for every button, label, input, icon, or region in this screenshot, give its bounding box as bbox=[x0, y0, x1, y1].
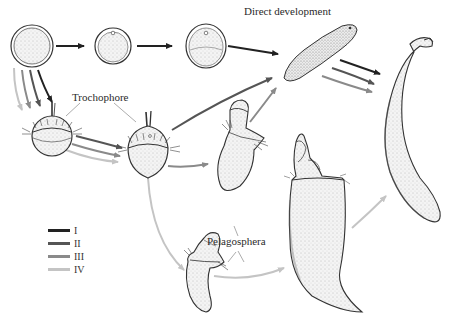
arrow-I-embryo-to-juvenile bbox=[228, 46, 278, 54]
leader-trochophore-1 bbox=[66, 103, 80, 116]
arrow-III-egg-to-trochophore bbox=[22, 70, 30, 108]
egg bbox=[11, 25, 53, 67]
transitional-larva bbox=[218, 100, 268, 191]
label-trochophore: Trochophore bbox=[72, 92, 128, 103]
leader-pelagosphera-up bbox=[238, 251, 244, 262]
legend-label-I: I bbox=[74, 225, 77, 236]
legend-label-III: III bbox=[74, 251, 84, 262]
arrow-IV-troch-to-pelagosphera bbox=[148, 178, 184, 270]
legend-label-II: II bbox=[74, 238, 81, 249]
trochophore-early bbox=[22, 102, 82, 156]
arrow-IV-troch-to-troch bbox=[66, 150, 118, 162]
legend-item-II: II bbox=[48, 237, 98, 250]
large-pelagosphera-larva bbox=[284, 134, 362, 312]
arrow-IV-large-to-adult bbox=[352, 196, 386, 228]
label-direct-development: Direct development bbox=[244, 6, 331, 17]
arrow-II-egg-to-trochophore bbox=[30, 70, 40, 106]
label-pelagosphera: Pelagosphera bbox=[207, 236, 266, 247]
legend: I II III IV bbox=[48, 224, 98, 276]
arrow-III-troch-to-larva bbox=[168, 164, 208, 167]
adult-sipunculan bbox=[385, 38, 440, 222]
legend-item-IV: IV bbox=[48, 263, 98, 276]
legend-swatch-IV bbox=[48, 268, 70, 271]
arrow-III-larva-to-juvenile bbox=[250, 88, 276, 122]
legend-swatch-III bbox=[48, 255, 70, 258]
late-embryo bbox=[186, 24, 226, 68]
arrow-IV-egg-to-trochophore bbox=[14, 68, 22, 110]
leader-trochophore-2 bbox=[114, 103, 136, 122]
arrow-III-juvenile-to-adult bbox=[322, 76, 372, 92]
legend-label-IV: IV bbox=[74, 264, 85, 275]
legend-swatch-II bbox=[48, 242, 70, 245]
developmental-pathways-diagram: Direct development Trochophore Pelagosph… bbox=[0, 0, 452, 323]
arrow-I-egg-to-trochophore bbox=[38, 70, 52, 102]
leader-pelagosphera-down bbox=[228, 252, 236, 262]
legend-item-III: III bbox=[48, 250, 98, 263]
legend-item-I: I bbox=[48, 224, 98, 237]
trochophore-late bbox=[118, 111, 180, 178]
legend-swatch-I bbox=[48, 229, 70, 232]
arrow-II-troch-to-juvenile bbox=[172, 78, 272, 130]
cleavage-embryo bbox=[95, 28, 131, 64]
arrow-IV-pelago-to-large bbox=[214, 268, 284, 278]
